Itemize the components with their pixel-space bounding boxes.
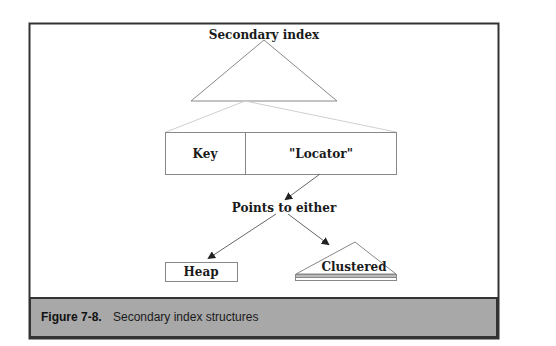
points-to-either-label: Points to either: [232, 202, 337, 214]
heap-arrow: [209, 214, 276, 258]
locator-arrow: [286, 174, 320, 199]
heap-label: Heap: [183, 266, 218, 278]
clustered-label: Clustered: [321, 261, 386, 273]
secondary-index-label: Secondary index: [209, 29, 319, 41]
figure-number: Figure 7-8.: [41, 310, 102, 324]
expansion-line-right: [245, 101, 396, 132]
figure-frame: [30, 24, 499, 339]
clustered-arrow: [288, 214, 328, 244]
caption-bar: Figure 7-8. Secondary index structures: [29, 297, 498, 338]
expansion-line-left: [166, 101, 245, 132]
figure: Secondary index Key "Locator" Points to …: [0, 0, 556, 346]
clustered-base-strip-lower: [296, 278, 397, 281]
locator-label: "Locator": [289, 148, 353, 160]
figure-caption: Secondary index structures: [113, 310, 258, 324]
key-label: Key: [193, 148, 218, 160]
secondary-index-triangle: [191, 40, 337, 101]
